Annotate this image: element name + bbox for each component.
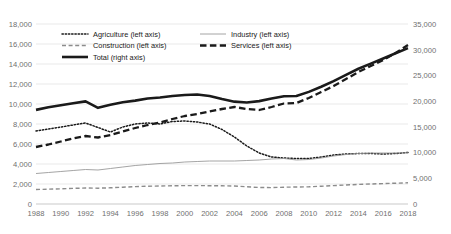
y2-axis-tick-label: 0 [413,200,417,209]
series-line-industry [36,153,408,174]
chart-container: 02,0004,0006,0008,00010,00012,00014,0001… [0,0,451,234]
x-axis-tick-label: 1996 [127,209,144,218]
y-axis-tick-label: 0 [28,200,32,209]
legend-label: Services (left axis) [231,41,291,50]
y-axis-tick-label: 10,000 [9,100,32,109]
y2-axis-tick-label: 5,000 [413,174,432,183]
y2-axis-tick-label: 15,000 [413,123,436,132]
y2-axis-tick-label: 30,000 [413,46,436,55]
legend-label: Construction (left axis) [93,41,167,50]
y-axis-tick-label: 4,000 [13,160,32,169]
x-axis-tick-label: 2012 [325,209,342,218]
y-axis-tick-label: 12,000 [9,80,32,89]
legend-label: Industry (left axis) [231,30,289,39]
x-axis-tick-label: 1988 [28,209,45,218]
series-line-agriculture [36,121,408,159]
y-axis-tick-label: 16,000 [9,40,32,49]
x-axis-tick-label: 2018 [400,209,417,218]
y-axis-tick-label: 14,000 [9,60,32,69]
x-axis-tick-label: 1992 [77,209,94,218]
y-axis-tick-label: 18,000 [9,20,32,29]
series-line-services [36,45,408,147]
y2-axis-tick-label: 35,000 [413,20,436,29]
legend-label: Total (right axis) [93,53,145,62]
y2-axis-tick-label: 10,000 [413,148,436,157]
y-axis-tick-label: 2,000 [13,180,32,189]
x-axis-tick-label: 1990 [52,209,69,218]
y-axis-tick-label: 8,000 [13,120,32,129]
x-axis-tick-label: 2000 [176,209,193,218]
x-axis-tick-label: 2014 [350,209,367,218]
x-axis-tick-label: 2004 [226,209,243,218]
x-axis-tick-label: 2008 [276,209,293,218]
x-axis-tick-label: 2016 [375,209,392,218]
x-axis-tick-label: 1994 [102,209,119,218]
x-axis-tick-label: 1998 [152,209,169,218]
line-chart: 02,0004,0006,0008,00010,00012,00014,0001… [0,0,451,234]
y2-axis-tick-label: 20,000 [413,97,436,106]
x-axis-tick-label: 2010 [300,209,317,218]
x-axis-tick-label: 2002 [201,209,218,218]
x-axis-tick-label: 2006 [251,209,268,218]
legend-label: Agriculture (left axis) [93,30,160,39]
y-axis-tick-label: 6,000 [13,140,32,149]
series-line-total [36,48,408,110]
y2-axis-tick-label: 25,000 [413,71,436,80]
